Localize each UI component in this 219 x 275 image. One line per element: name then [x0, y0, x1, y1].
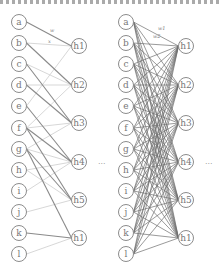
hidden-node-h1-5: h1: [179, 231, 194, 246]
node-label: l: [125, 249, 128, 259]
weak-edge: [27, 238, 72, 254]
input-node-c: c: [12, 57, 27, 72]
node-label: h1: [73, 233, 85, 243]
node-label: b: [16, 38, 22, 48]
weak-edge: [27, 85, 72, 128]
input-node-f: f: [119, 121, 134, 136]
input-node-f: f: [12, 121, 27, 136]
input-node-g: g: [12, 142, 27, 157]
hidden-node-h3-2: h3: [179, 116, 194, 131]
input-node-j: j: [119, 205, 134, 220]
node-label: h5: [180, 195, 192, 205]
input-node-g: g: [119, 142, 134, 157]
node-label: h2: [73, 80, 85, 90]
input-node-i: i: [119, 184, 134, 199]
input-node-b: b: [12, 36, 27, 51]
hidden-node-h1-0: h1: [72, 39, 87, 54]
node-label: g: [16, 144, 22, 154]
hidden-node-h4-3: h4: [179, 155, 194, 170]
edge-weight-label: w2: [153, 33, 160, 39]
edges: [27, 22, 72, 254]
weak-edge: [27, 149, 72, 162]
node-label: l: [18, 249, 21, 259]
node-label: e: [123, 101, 128, 111]
input-node-d: d: [12, 78, 27, 93]
node-label: h1: [73, 41, 85, 51]
hidden-node-h2-1: h2: [179, 78, 194, 93]
input-node-c: c: [119, 57, 134, 72]
node-label: h3: [180, 118, 192, 128]
ellipsis: ...: [98, 157, 106, 166]
edge-weight-label: w1: [158, 25, 165, 31]
input-node-e: e: [119, 99, 134, 114]
node-label: j: [17, 207, 21, 217]
node-label: c: [16, 59, 21, 69]
edge: [134, 46, 179, 128]
input-node-j: j: [12, 205, 27, 220]
node-label: h3: [73, 118, 85, 128]
node-label: h2: [180, 80, 192, 90]
node-label: h: [123, 165, 129, 175]
node-label: g: [123, 144, 129, 154]
node-label: c: [123, 59, 128, 69]
weak-edge: [27, 46, 72, 106]
input-node-b: b: [119, 36, 134, 51]
edge: [134, 43, 179, 46]
weak-edge: [27, 64, 72, 85]
input-node-i: i: [12, 184, 27, 199]
node-label: h: [16, 165, 22, 175]
edge-weight-label: w: [50, 27, 55, 33]
hidden-node-h5-4: h5: [72, 193, 87, 208]
hidden-node-h4-3: h4: [72, 155, 87, 170]
node-label: h5: [73, 195, 85, 205]
hidden-node-h5-4: h5: [179, 193, 194, 208]
node-label: k: [123, 228, 129, 238]
node-label: j: [124, 207, 128, 217]
strong-edge: [27, 233, 72, 238]
hidden-node-h1-0: h1: [179, 39, 194, 54]
input-node-e: e: [12, 99, 27, 114]
hidden-node-h1-5: h1: [72, 231, 87, 246]
node-label: d: [16, 80, 22, 90]
weak-edge: [27, 200, 72, 212]
node-label: i: [125, 186, 128, 196]
node-label: i: [18, 186, 21, 196]
hidden-node-h3-2: h3: [72, 116, 87, 131]
node-label: e: [16, 101, 21, 111]
node-label: h1: [180, 41, 192, 51]
strong-edge: [27, 149, 72, 238]
node-label: h4: [73, 157, 85, 167]
edges: [134, 22, 179, 254]
node-label: a: [16, 17, 22, 27]
input-node-d: d: [119, 78, 134, 93]
node-label: k: [16, 228, 22, 238]
dense-network-panel: w1w2abcdefghijklh1h2h3h4h5h1...: [119, 15, 213, 262]
input-node-l: l: [119, 247, 134, 262]
input-node-a: a: [12, 15, 27, 30]
sparse-network-panel: wxabcdefghijklh1h2h3h4h5h1...: [12, 15, 106, 262]
input-node-a: a: [119, 15, 134, 30]
strong-edge: [27, 128, 72, 200]
node-label: b: [123, 38, 129, 48]
node-label: h4: [180, 157, 192, 167]
node-label: d: [123, 80, 129, 90]
hidden-node-h2-1: h2: [72, 78, 87, 93]
node-label: h1: [180, 233, 192, 243]
input-node-k: k: [12, 226, 27, 241]
input-node-h: h: [119, 163, 134, 178]
node-label: a: [123, 17, 129, 27]
edge-weight-label: x: [48, 38, 51, 44]
strong-edge: [27, 85, 72, 123]
strong-edge: [27, 43, 72, 85]
input-node-l: l: [12, 247, 27, 262]
input-node-k: k: [119, 226, 134, 241]
network-diagram: wxabcdefghijklh1h2h3h4h5h1... w1w2abcdef…: [0, 0, 219, 275]
input-node-h: h: [12, 163, 27, 178]
ellipsis: ...: [205, 157, 213, 166]
